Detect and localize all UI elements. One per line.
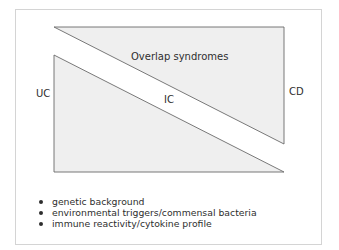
- bullet-icon: [39, 222, 43, 226]
- factor-item: environmental triggers/commensal bacteri…: [36, 207, 257, 218]
- factor-item: genetic background: [36, 196, 257, 207]
- factor-text: genetic background: [52, 196, 145, 207]
- factor-text: environmental triggers/commensal bacteri…: [52, 207, 257, 218]
- factor-text: immune reactivity/cytokine profile: [52, 218, 212, 229]
- label-cd: CD: [289, 86, 304, 98]
- label-overlap-syndromes: Overlap syndromes: [131, 51, 228, 63]
- label-uc: UC: [36, 88, 50, 100]
- label-ic: IC: [164, 94, 174, 106]
- bullet-icon: [39, 200, 43, 204]
- factor-item: immune reactivity/cytokine profile: [36, 218, 257, 229]
- bullet-icon: [39, 211, 43, 215]
- factor-list: genetic background environmental trigger…: [36, 196, 257, 229]
